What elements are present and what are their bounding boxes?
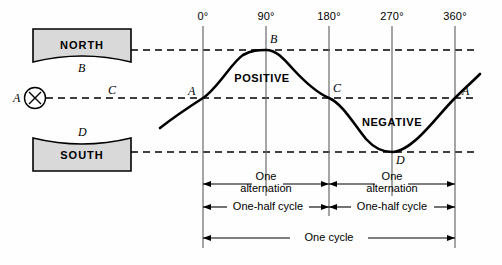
alternation-left-line1: One (240, 170, 291, 182)
halfcycle-right-arrow-start (329, 204, 337, 210)
region-label-negative: NEGATIVE (362, 117, 422, 128)
halfcycle-right-arrow-end (447, 204, 455, 210)
conductor-label-a: A (13, 92, 20, 104)
dimension-half-cycle-left: One-half cycle (233, 201, 303, 212)
conductor-center-label-c: C (108, 84, 116, 96)
curve-point-c-mid: C (333, 82, 341, 94)
dimension-one-cycle: One cycle (305, 232, 354, 243)
curve-point-a-end: A (462, 85, 469, 97)
sine-curve (160, 50, 480, 152)
curve-point-a-start: A (188, 85, 195, 97)
region-label-positive: POSITIVE (234, 73, 290, 84)
cycle-arrow-end (447, 235, 455, 241)
alternation-right-arrow-end (447, 181, 455, 187)
halfcycle-left-arrow-end (321, 204, 329, 210)
halfcycle-left-arrow-start (203, 204, 211, 210)
north-pole-label: NORTH (60, 39, 104, 51)
alternation-right-line1: One (366, 170, 417, 182)
dimension-alternation-right: One alternation (366, 170, 417, 195)
alternation-left-arrow-end (321, 181, 329, 187)
dimension-alternation-left: One alternation (240, 170, 291, 195)
alternation-right-line2: alternation (366, 182, 417, 194)
alternation-left-line2: alternation (240, 182, 291, 194)
point-label-b-pole: B (78, 62, 85, 74)
cycle-arrow-start (203, 235, 211, 241)
point-label-d-pole: D (78, 126, 87, 138)
sine-wave-diagram: NORTH SOUTH B D A C 0° 90° 180° 270° 360… (0, 0, 502, 265)
dimension-half-cycle-right: One-half cycle (357, 201, 427, 212)
degree-label-90: 90° (257, 11, 274, 22)
alternation-left-arrow-start (203, 181, 211, 187)
south-pole-label: SOUTH (60, 149, 104, 161)
alternation-right-arrow-start (329, 181, 337, 187)
curve-point-d-trough: D (396, 154, 405, 166)
degree-label-180: 180° (317, 11, 341, 22)
degree-label-270: 270° (380, 11, 404, 22)
degree-label-0: 0° (198, 11, 209, 22)
curve-point-b-peak: B (270, 33, 277, 45)
degree-label-360: 360° (443, 11, 467, 22)
